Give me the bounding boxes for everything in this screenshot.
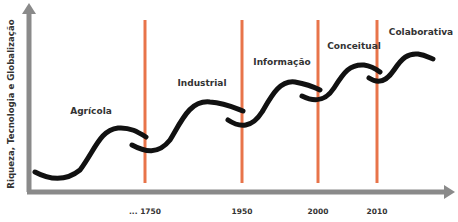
curve-colaborativa bbox=[369, 54, 433, 81]
era-label-conceitual: Conceitual bbox=[327, 41, 381, 51]
era-label-informacao: Informação bbox=[253, 57, 310, 67]
y-axis-label: Riqueza, Tecnologia e Globalização bbox=[6, 19, 16, 188]
era-label-colaborativa: Colaborativa bbox=[389, 27, 453, 37]
era-label-agricola: Agrícola bbox=[70, 106, 112, 116]
milestone-label-1750: ... 1750 bbox=[129, 207, 161, 216]
milestone-label-2010: 2010 bbox=[367, 207, 388, 216]
curve-agricola bbox=[35, 128, 146, 179]
milestone-label-1950: 1950 bbox=[232, 207, 253, 216]
x-axis-arrow-icon bbox=[444, 185, 455, 199]
growth-curves bbox=[35, 54, 433, 179]
curve-industrial bbox=[132, 102, 243, 151]
milestone-labels: ... 1750 1950 2000 2010 bbox=[129, 207, 387, 216]
y-axis-arrow-icon bbox=[22, 3, 36, 14]
era-label-industrial: Industrial bbox=[178, 78, 227, 88]
curve-conceitual bbox=[302, 65, 380, 100]
milestone-label-2000: 2000 bbox=[308, 207, 329, 216]
eras-diagram: Agrícola Industrial Informação Conceitua… bbox=[0, 0, 458, 222]
